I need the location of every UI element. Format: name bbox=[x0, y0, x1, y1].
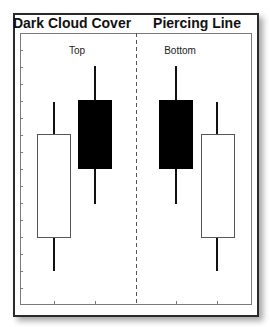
candle-bearish-piercing bbox=[159, 66, 193, 204]
candle-bullish-dark-cloud bbox=[38, 102, 71, 271]
candle-bearish-dark-cloud bbox=[78, 66, 112, 204]
candle-bullish-piercing bbox=[202, 102, 235, 271]
candlestick-diagram bbox=[0, 0, 270, 327]
